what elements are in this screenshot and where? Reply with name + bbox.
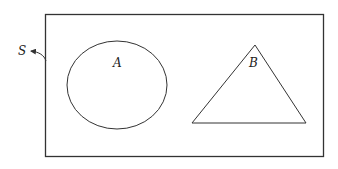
- pointer-arrow: [31, 51, 46, 61]
- universal-set-label: S: [18, 44, 26, 58]
- set-a-label: A: [112, 56, 122, 70]
- set-a-circle: [67, 41, 167, 129]
- set-b-label: B: [248, 56, 258, 70]
- venn-diagram: S A B: [0, 0, 338, 169]
